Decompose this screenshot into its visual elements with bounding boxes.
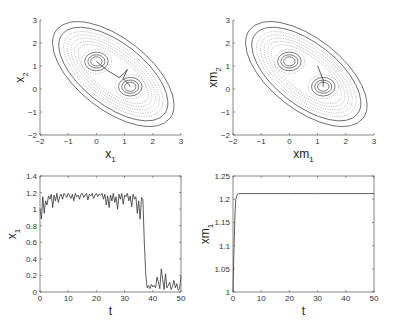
x-tick-label: 40 (148, 294, 157, 303)
x-tick-label: 20 (92, 294, 101, 303)
x-tick-label: 50 (177, 294, 186, 303)
x-axis-label: t (302, 304, 306, 318)
trajectory-line (96, 61, 130, 86)
x-tick-label: 50 (370, 294, 379, 303)
y-tick-label: 0 (33, 85, 38, 94)
y-tick-label: 1.05 (214, 265, 230, 274)
y-axis-label: xm1 (198, 223, 215, 244)
y-tick-label: 0.6 (26, 238, 38, 247)
y-axis-label: x1 (5, 228, 22, 239)
timeseries-plot-xm1: 0102030405011.051.11.151.21.25txm1 (198, 172, 379, 318)
x-tick-label: −1 (257, 137, 267, 146)
y-tick-label: 1.2 (26, 189, 38, 198)
x-tick-label: 2 (344, 137, 349, 146)
contour-plot-xm: −2−10123−2−10123xm1xm2 (206, 2, 385, 164)
y-tick-label: 2 (33, 39, 38, 48)
y-tick-label: −1 (221, 108, 231, 117)
x-tick-label: 10 (257, 294, 266, 303)
x-tick-label: 20 (285, 294, 294, 303)
contour-line (262, 34, 350, 114)
contour-plot-x: −2−10123−2−10123x1x2 (13, 2, 192, 164)
data-series-line (233, 194, 374, 292)
x-axis-label: xm1 (293, 147, 314, 164)
x-tick-label: 0 (94, 137, 99, 146)
x-tick-label: 1 (315, 137, 320, 146)
y-tick-label: −2 (221, 131, 231, 140)
x-axis-label: t (109, 304, 113, 318)
y-tick-label: 0 (226, 85, 231, 94)
contour-line (257, 30, 355, 118)
x-tick-label: 3 (179, 137, 184, 146)
x-tick-label: 0 (231, 294, 236, 303)
y-tick-label: 1 (33, 205, 38, 214)
y-tick-label: 0.4 (26, 255, 38, 264)
y-tick-label: 1.25 (214, 172, 230, 181)
trajectory-line (318, 66, 324, 87)
x-tick-label: 2 (151, 137, 156, 146)
y-tick-label: 1 (226, 288, 231, 297)
figure-canvas: −2−10123−2−10123x1x2 −2−10123−2−10123xm1… (0, 0, 393, 325)
data-series-line (40, 193, 181, 290)
x-tick-label: 0 (287, 137, 292, 146)
timeseries-plot-x1: 0102030405000.20.40.60.811.21.4tx1 (5, 172, 186, 318)
y-tick-label: 3 (33, 16, 38, 25)
contour-line (243, 16, 370, 132)
x-tick-label: 0 (38, 294, 43, 303)
y-tick-label: −2 (28, 131, 38, 140)
y-tick-label: 1.2 (219, 195, 231, 204)
well-contour (274, 49, 304, 73)
y-tick-label: −1 (28, 108, 38, 117)
y-tick-label: 1.15 (214, 218, 230, 227)
x-tick-label: 40 (341, 294, 350, 303)
y-tick-label: 0.2 (26, 271, 38, 280)
well-contour (115, 75, 145, 99)
y-tick-label: 1 (226, 62, 231, 71)
x-tick-label: 3 (372, 137, 377, 146)
y-axis-label: x2 (13, 72, 30, 83)
x-tick-label: 1 (122, 137, 127, 146)
x-tick-label: −1 (64, 137, 74, 146)
y-tick-label: 2 (226, 39, 231, 48)
well-contour (125, 82, 136, 91)
contour-line (228, 2, 385, 147)
y-tick-label: 0 (33, 288, 38, 297)
y-tick-label: 1.4 (26, 172, 38, 181)
y-axis-label: xm2 (206, 67, 223, 88)
y-tick-label: 1.1 (219, 242, 231, 251)
well-contour (284, 57, 295, 66)
x-tick-label: 30 (313, 294, 322, 303)
y-tick-label: 1 (33, 62, 38, 71)
x-tick-label: 30 (120, 294, 129, 303)
x-tick-label: 10 (64, 294, 73, 303)
contour-line (253, 25, 360, 123)
x-axis-label: x1 (105, 147, 116, 164)
y-tick-label: 0.8 (26, 222, 38, 231)
y-tick-label: 3 (226, 16, 231, 25)
